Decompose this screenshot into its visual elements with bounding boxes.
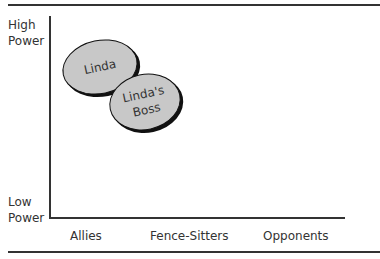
x-axis-line	[49, 217, 345, 219]
bottom-rule	[8, 251, 380, 253]
node-linda-label: Linda	[82, 56, 117, 78]
low-label-line2: Power	[8, 210, 44, 226]
y-axis-low-label: Low Power	[8, 194, 44, 226]
y-axis-high-label: High Power	[8, 17, 44, 49]
high-label-line2: Power	[8, 33, 44, 49]
y-axis-line	[49, 16, 51, 219]
x-category-fence-sitters: Fence-Sitters	[150, 229, 228, 243]
x-category-opponents: Opponents	[263, 229, 329, 243]
x-category-allies: Allies	[70, 229, 102, 243]
high-label-line1: High	[8, 17, 44, 33]
top-rule	[8, 4, 380, 6]
low-label-line1: Low	[8, 194, 44, 210]
